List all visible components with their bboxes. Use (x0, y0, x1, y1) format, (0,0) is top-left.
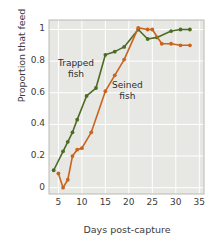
data-point (146, 37, 150, 41)
data-point (89, 130, 93, 134)
data-point (61, 186, 65, 190)
data-point (113, 73, 117, 77)
x-tick-label: 10 (76, 197, 87, 207)
x-tick-label: 30 (170, 197, 181, 207)
data-point (71, 130, 75, 134)
data-point (94, 86, 98, 90)
data-point (188, 28, 192, 32)
series-annotation-trapped-fish: Trappedfish (58, 58, 94, 79)
chart-container: Proportion that feed 00.20.40.60.81 5101… (0, 0, 215, 241)
annotation-line-1: Trapped (58, 58, 94, 69)
data-point (61, 149, 65, 153)
data-point (66, 140, 70, 144)
data-point (71, 154, 75, 158)
annotation-line-1: Seined (112, 80, 143, 91)
data-point (136, 26, 140, 30)
data-point (188, 43, 192, 47)
annotation-line-2: fish (58, 69, 94, 80)
x-tick-label: 25 (147, 197, 158, 207)
data-point (52, 168, 56, 172)
data-point (146, 28, 150, 32)
x-tick-label: 15 (100, 197, 111, 207)
data-point (85, 94, 89, 98)
data-point (103, 53, 107, 57)
data-point (169, 42, 173, 46)
x-axis-tick-labels: 5101520253035 (0, 197, 215, 211)
series-annotation-seined-fish: Seinedfish (112, 80, 143, 101)
data-point (122, 45, 126, 49)
x-axis-title: Days post-capture (49, 224, 205, 235)
data-point (122, 58, 126, 62)
data-point (75, 118, 79, 122)
data-point (80, 146, 84, 150)
data-point (160, 42, 164, 46)
data-point (179, 28, 183, 32)
data-point (75, 148, 79, 152)
data-point (150, 28, 154, 32)
data-point (66, 178, 70, 182)
x-tick-label: 35 (194, 197, 205, 207)
data-point (169, 29, 173, 33)
annotation-line-2: fish (112, 91, 143, 102)
data-point (56, 172, 60, 176)
data-point (113, 50, 117, 54)
x-tick-label: 5 (56, 197, 62, 207)
data-point (179, 43, 183, 47)
data-point (103, 89, 107, 93)
x-tick-label: 20 (123, 197, 134, 207)
